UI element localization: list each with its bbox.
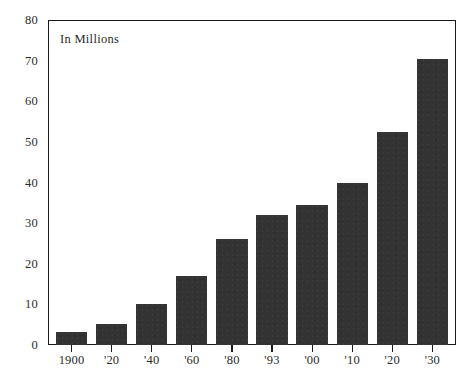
bar-slot <box>132 21 172 345</box>
x-tick-label: '20 <box>372 353 412 375</box>
y-tick-label: 40 <box>25 175 38 190</box>
bar[interactable] <box>216 239 247 344</box>
bar[interactable] <box>256 215 287 344</box>
x-tick-slot <box>92 345 132 352</box>
x-tick-mark <box>191 345 192 352</box>
bars-container <box>50 21 455 345</box>
y-tick-label: 70 <box>25 53 38 68</box>
bar-slot <box>372 21 412 345</box>
x-tick-slot <box>132 345 172 352</box>
bar[interactable] <box>136 304 167 344</box>
x-tick-mark <box>312 345 313 352</box>
x-axis-ticks <box>50 345 455 352</box>
bar[interactable] <box>296 205 327 345</box>
y-axis: 01020304050607080 <box>0 20 44 345</box>
bar-slot <box>52 21 92 345</box>
x-tick-slot <box>52 345 92 352</box>
y-tick-label: 0 <box>32 338 38 353</box>
x-tick-slot <box>172 345 212 352</box>
bar[interactable] <box>176 276 207 345</box>
x-tick-mark <box>392 345 393 352</box>
x-tick-label: '40 <box>132 353 172 375</box>
bar[interactable] <box>417 59 448 344</box>
x-tick-slot <box>292 345 332 352</box>
x-tick-mark <box>111 345 112 352</box>
y-tick-label: 80 <box>25 13 38 28</box>
x-tick-slot <box>252 345 292 352</box>
x-tick-label: '00 <box>292 353 332 375</box>
bar[interactable] <box>337 183 368 345</box>
bar-chart: 01020304050607080 In Millions 1900'20'40… <box>0 0 472 388</box>
bar-slot <box>412 21 452 345</box>
y-tick-label: 30 <box>25 216 38 231</box>
x-tick-slot <box>212 345 252 352</box>
x-tick-mark <box>352 345 353 352</box>
bar-slot <box>212 21 252 345</box>
bar-slot <box>292 21 332 345</box>
x-tick-mark <box>71 345 72 352</box>
x-tick-slot <box>412 345 452 352</box>
y-tick-label: 10 <box>25 297 38 312</box>
x-tick-label: '60 <box>172 353 212 375</box>
y-tick-label: 50 <box>25 134 38 149</box>
x-tick-slot <box>372 345 412 352</box>
x-tick-label: 1900 <box>52 353 92 375</box>
bar-slot <box>332 21 372 345</box>
x-axis-labels: 1900'20'40'60'80'93'00'10'20'30 <box>50 353 455 375</box>
x-tick-mark <box>432 345 433 352</box>
bar[interactable] <box>377 132 408 344</box>
bar[interactable] <box>96 324 127 344</box>
bar[interactable] <box>56 332 87 344</box>
x-tick-label: '93 <box>252 353 292 375</box>
x-tick-mark <box>271 345 272 352</box>
x-tick-slot <box>332 345 372 352</box>
x-tick-label: '20 <box>92 353 132 375</box>
bar-slot <box>92 21 132 345</box>
x-tick-mark <box>231 345 232 352</box>
y-tick-label: 20 <box>25 256 38 271</box>
x-tick-mark <box>151 345 152 352</box>
bar-slot <box>172 21 212 345</box>
x-tick-label: '80 <box>212 353 252 375</box>
x-tick-label: '30 <box>412 353 452 375</box>
bar-slot <box>252 21 292 345</box>
y-tick-label: 60 <box>25 94 38 109</box>
x-tick-label: '10 <box>332 353 372 375</box>
